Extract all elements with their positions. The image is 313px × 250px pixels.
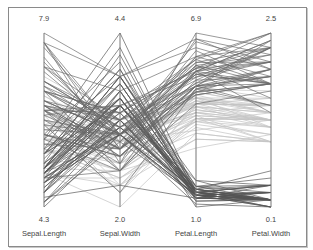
parallel-coordinates-plot	[0, 0, 313, 250]
axis-max-label-sepal-length: 7.9	[14, 14, 74, 23]
axis-max-label-sepal-width: 4.4	[90, 14, 150, 23]
axis-name-sepal-length: Sepal.Length	[14, 229, 74, 238]
axis-min-label-sepal-width: 2.0	[90, 215, 150, 224]
axis-min-label-petal-width: 0.1	[241, 215, 301, 224]
axis-name-sepal-width: Sepal.Width	[90, 229, 150, 238]
data-line	[44, 39, 271, 77]
axis-min-label-sepal-length: 4.3	[14, 215, 74, 224]
axis-min-label-petal-length: 1.0	[166, 215, 226, 224]
axis-max-label-petal-length: 6.9	[166, 14, 226, 23]
axis-name-petal-width: Petal.Width	[241, 229, 301, 238]
axis-max-label-petal-width: 2.5	[241, 14, 301, 23]
axis-name-petal-length: Petal.Length	[166, 229, 226, 238]
